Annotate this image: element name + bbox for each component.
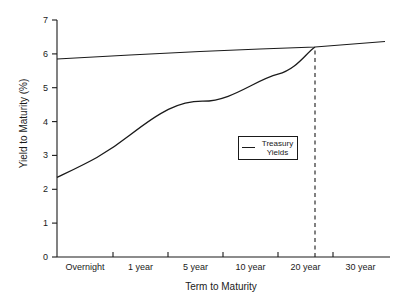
x-tick-label-30-year: 30 year	[333, 262, 388, 272]
x-axis-title: Term to Maturity	[57, 281, 385, 292]
y-tick-label-5: 5	[32, 83, 48, 93]
x-axis-ticks	[113, 252, 333, 257]
x-tick-label-overnight: Overnight	[57, 262, 113, 272]
chart-legend: Treasury Yields	[238, 136, 298, 160]
y-axis-title: Yield to Maturity (%)	[18, 49, 29, 199]
plot-canvas	[0, 0, 420, 304]
x-tick-label-5-year: 5 year	[168, 262, 223, 272]
y-tick-label-3: 3	[32, 150, 48, 160]
y-tick-label-6: 6	[32, 49, 48, 59]
series-line-flat	[57, 42, 385, 60]
x-tick-label-1-year: 1 year	[113, 262, 168, 272]
x-tick-label-10-year: 10 year	[223, 262, 278, 272]
y-axis-ticks	[52, 20, 57, 257]
yield-curve-chart: 0 1 2 3 4 5 6 7 Overnight 1 year 5 year …	[0, 0, 420, 304]
y-tick-label-2: 2	[32, 184, 48, 194]
legend-line-swatch-icon	[242, 147, 255, 148]
y-tick-label-1: 1	[32, 218, 48, 228]
legend-entry-label: Treasury Yields	[258, 139, 297, 157]
y-tick-label-4: 4	[32, 117, 48, 127]
x-tick-label-20-year: 20 year	[278, 262, 333, 272]
y-tick-label-0: 0	[32, 252, 48, 262]
y-tick-label-7: 7	[32, 15, 48, 25]
